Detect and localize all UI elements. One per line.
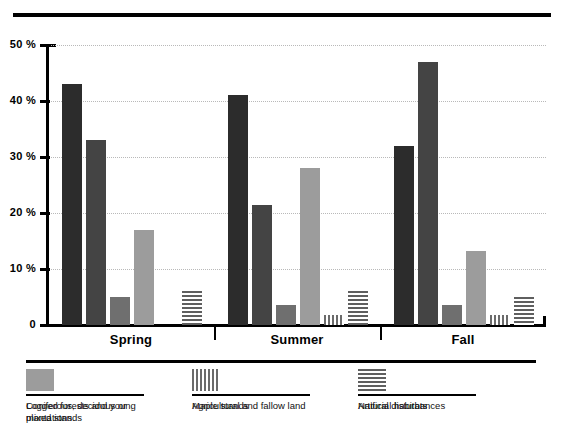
bar-fall-series-1 (418, 62, 438, 325)
bar-spring-series-0 (62, 84, 82, 325)
y-axis-label: 20 % (0, 206, 36, 218)
chart-legend: Coniferous, decidous or mixed standsMapl… (26, 360, 536, 442)
legend-label-3: Logged forests and young plantations (26, 400, 146, 423)
legend-label-5: Artificial habitats (358, 400, 478, 412)
bar-spring-series-3 (134, 230, 154, 325)
legend-divider-rule (26, 360, 536, 363)
bar-fall-series-0 (394, 146, 414, 325)
x-axis-label-spring: Spring (48, 332, 214, 347)
legend-swatch-icon-3 (26, 369, 54, 391)
bar-spring-series-5 (182, 291, 202, 325)
y-axis-label: 40 % (0, 94, 36, 106)
bar-group-summer (214, 45, 380, 325)
legend-item-5[interactable]: Artificial habitats (358, 369, 508, 412)
x-axis-group-separator (380, 327, 382, 340)
y-axis-label: 10 % (0, 262, 36, 274)
legend-swatch-icon-5 (358, 369, 386, 391)
x-axis-label-fall: Fall (380, 332, 546, 347)
bar-fall-series-3 (466, 251, 486, 325)
bar-fall-series-5 (514, 297, 534, 325)
bar-spring-series-2 (110, 297, 130, 325)
title-divider-rule (13, 13, 551, 17)
chart-plot-area: 010 %20 %30 %40 %50 % (48, 45, 546, 325)
bar-summer-series-5 (348, 291, 368, 325)
legend-swatch-icon-4 (192, 369, 220, 391)
bar-summer-series-2 (276, 305, 296, 325)
legend-underline (26, 394, 144, 396)
bar-summer-series-3 (300, 168, 320, 325)
bar-group-fall (380, 45, 546, 325)
bar-group-spring (48, 45, 214, 325)
page-title (13, 0, 551, 10)
legend-label-4: Agricultural and fallow land (192, 400, 312, 412)
bar-fall-series-2 (442, 305, 462, 325)
bar-summer-series-1 (252, 205, 272, 325)
bar-summer-series-0 (228, 95, 248, 325)
bar-summer-series-4 (324, 315, 344, 325)
y-axis-label: 30 % (0, 150, 36, 162)
y-axis-label: 50 % (0, 38, 36, 50)
y-axis-label: 0 (0, 318, 36, 330)
legend-item-3[interactable]: Logged forests and young plantations (26, 369, 176, 423)
x-axis-label-summer: Summer (214, 332, 380, 347)
bar-fall-series-4 (490, 315, 510, 325)
legend-item-4[interactable]: Agricultural and fallow land (192, 369, 342, 412)
legend-underline (358, 394, 476, 396)
legend-underline (192, 394, 310, 396)
x-axis-group-separator (214, 327, 216, 340)
bar-spring-series-1 (86, 140, 106, 325)
